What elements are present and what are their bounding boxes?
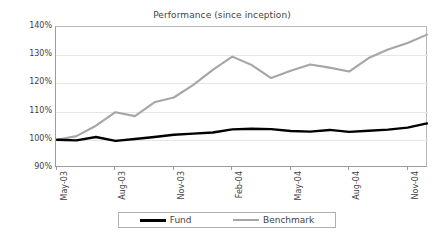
legend-item-benchmark: Benchmark	[233, 215, 314, 225]
x-axis-tick	[173, 167, 174, 170]
x-axis-tick-label: Aug-04	[352, 171, 361, 200]
x-axis-tick	[407, 167, 408, 170]
legend-label-benchmark: Benchmark	[263, 215, 314, 225]
x-axis-tick	[290, 167, 291, 170]
legend-swatch-benchmark-icon	[233, 219, 259, 221]
x-axis-tick-label: Aug-03	[118, 171, 127, 200]
x-axis-tick	[114, 167, 115, 170]
performance-chart: Performance (since inception) 140%130%12…	[0, 0, 444, 239]
legend-swatch-fund-icon	[140, 219, 166, 222]
legend-item-fund: Fund	[140, 215, 192, 225]
x-axis-tick	[348, 167, 349, 170]
x-axis-tick-label: Nov-03	[177, 171, 186, 199]
x-axis-labels: May-03Aug-03Nov-03Feb-04May-04Aug-04Nov-…	[0, 0, 444, 239]
x-axis-tick-label: Feb-04	[235, 171, 244, 198]
legend-label-fund: Fund	[170, 215, 192, 225]
x-axis-tick-label: May-04	[294, 171, 303, 200]
x-axis-tick	[56, 167, 57, 170]
chart-legend: Fund Benchmark	[118, 212, 336, 228]
x-axis-tick-label: Nov-04	[411, 171, 420, 199]
x-axis-tick-label: May-03	[60, 171, 69, 200]
x-axis-tick	[231, 167, 232, 170]
